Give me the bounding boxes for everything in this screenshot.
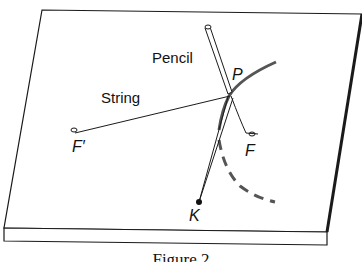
pencil-label: Pencil xyxy=(152,49,193,66)
diagram-drawing xyxy=(0,0,362,262)
hyperbola-construction-diagram: Pencil String P F′ F K Figure 2 xyxy=(0,0,362,262)
point-k-dot xyxy=(196,199,202,205)
figure-caption: Figure 2 xyxy=(0,250,362,262)
board-top xyxy=(4,10,362,232)
focus-f-prime-label: F′ xyxy=(72,138,85,156)
point-k-label: K xyxy=(189,207,200,225)
focus-f-label: F xyxy=(245,142,255,160)
string-label: String xyxy=(101,89,140,106)
pencil-eraser xyxy=(205,25,211,29)
point-p-label: P xyxy=(232,66,243,84)
